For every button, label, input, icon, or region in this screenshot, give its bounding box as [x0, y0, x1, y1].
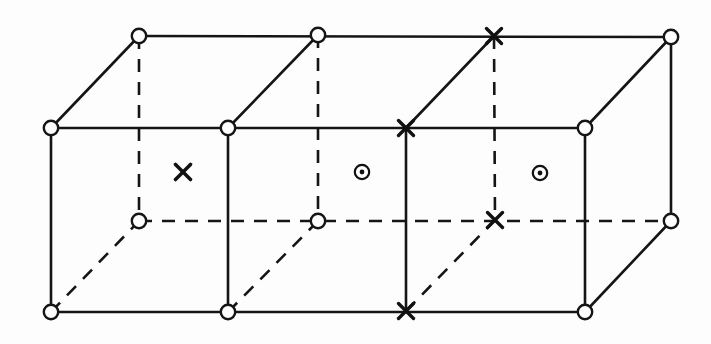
- back-bottom-1: [132, 214, 146, 228]
- front-top-4: [578, 121, 592, 135]
- edge-depth-bottom-3: [406, 220, 495, 311]
- edge-depth-bottom-4: [585, 221, 671, 312]
- face-spin-2: [355, 165, 369, 179]
- edge-depth-top-2: [228, 35, 318, 128]
- front-bottom-1: [44, 305, 58, 319]
- face-spin-3: [533, 166, 547, 180]
- front-top-2: [221, 121, 235, 135]
- face-symbol-group: [176, 165, 548, 181]
- face-spin-1: [176, 165, 191, 180]
- edge-depth-top-4: [585, 37, 671, 128]
- edge-depth-top-3: [406, 36, 494, 128]
- back-top-1: [132, 29, 146, 43]
- back-bottom-2: [311, 214, 325, 228]
- face-spin-3-core: [538, 171, 543, 176]
- edge-depth-bottom-1: [51, 221, 139, 312]
- front-bottom-2: [221, 305, 235, 319]
- edge-depth-top-1: [51, 36, 139, 128]
- face-spin-2-core: [360, 170, 365, 175]
- lattice-figure: [0, 0, 711, 344]
- lattice-diagram-canvas: [0, 0, 711, 344]
- back-top-2: [311, 28, 325, 42]
- back-top-4: [664, 30, 678, 44]
- front-bottom-4: [578, 305, 592, 319]
- back-bottom-4: [664, 214, 678, 228]
- edge-back-top-rail: [139, 36, 671, 37]
- front-top-1: [44, 121, 58, 135]
- edge-depth-bottom-2: [228, 221, 318, 312]
